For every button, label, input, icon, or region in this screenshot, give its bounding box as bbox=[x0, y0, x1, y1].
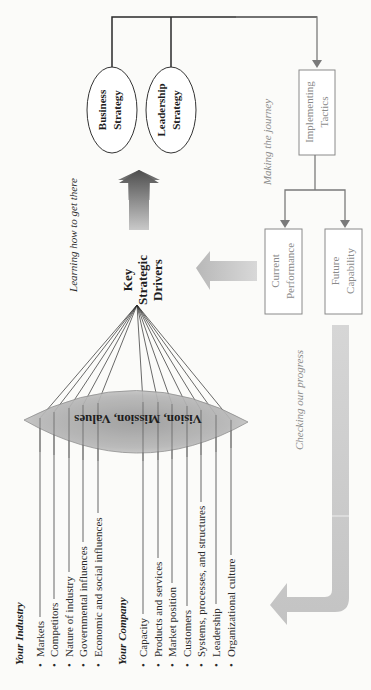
current-performance-line2: Performance bbox=[284, 243, 296, 299]
current-performance-node: Current Performance bbox=[265, 229, 302, 314]
svg-text:Competitors: Competitors bbox=[48, 603, 60, 657]
svg-text:Markets: Markets bbox=[34, 621, 46, 657]
future-capability-line1: Future bbox=[329, 257, 341, 286]
bullet-icon: • bbox=[92, 663, 104, 667]
list-item: • Economic and social influences bbox=[92, 517, 104, 667]
list-item: • Capacity bbox=[137, 617, 149, 667]
strategy-connector bbox=[112, 17, 322, 68]
industry-heading: Your Industry bbox=[13, 602, 25, 665]
business-strategy-node: Business Strategy bbox=[87, 67, 137, 153]
leadership-strategy-line2: Strategy bbox=[170, 90, 182, 130]
arrowhead-icon bbox=[340, 220, 350, 228]
svg-text:Organizational culture: Organizational culture bbox=[225, 558, 237, 657]
svg-text:Market position: Market position bbox=[166, 587, 178, 657]
return-arrow-icon bbox=[270, 325, 349, 625]
drivers-line1: Key bbox=[120, 268, 135, 291]
drivers-line2: Strategic bbox=[135, 255, 150, 305]
bullet-icon: • bbox=[195, 663, 207, 667]
bullet-icon: • bbox=[166, 663, 178, 667]
bullet-icon: • bbox=[181, 663, 193, 667]
industry-list: Your Industry • Markets • Competitors • … bbox=[13, 517, 104, 667]
list-item: • Market position bbox=[166, 587, 178, 667]
bullet-icon: • bbox=[210, 663, 222, 667]
list-item: • Governmental influences bbox=[77, 546, 89, 667]
caption-journey: Making the journey bbox=[261, 99, 273, 186]
list-item: • Products and services bbox=[152, 562, 164, 667]
svg-text:Capacity: Capacity bbox=[137, 617, 149, 657]
list-item: • Nature of industry bbox=[63, 576, 75, 667]
bullet-icon: • bbox=[77, 663, 89, 667]
list-item: • Leadership bbox=[210, 608, 222, 667]
list-item: • Customers bbox=[181, 610, 193, 667]
leadership-strategy-line1: Leadership bbox=[155, 83, 167, 136]
bullet-icon: • bbox=[225, 663, 237, 667]
list-item: • Organizational culture bbox=[225, 558, 237, 667]
svg-text:Products and services: Products and services bbox=[152, 562, 164, 657]
business-strategy-line2: Strategy bbox=[111, 90, 123, 130]
list-item: • Markets bbox=[34, 621, 46, 667]
svg-text:Nature of industry: Nature of industry bbox=[63, 576, 75, 657]
future-capability-node: Future Capability bbox=[325, 229, 362, 314]
caption-learning: Learning how to get there bbox=[67, 178, 79, 293]
svg-text:Economic and social influences: Economic and social influences bbox=[92, 517, 104, 657]
svg-text:Leadership: Leadership bbox=[210, 608, 222, 657]
list-item: • Competitors bbox=[48, 603, 60, 667]
list-item: • Systems, processes, and structures bbox=[195, 506, 207, 667]
svg-text:Systems, processes, and struct: Systems, processes, and structures bbox=[195, 506, 207, 657]
implementing-tactics-node: Implementing Tactics bbox=[299, 70, 335, 155]
current-performance-line1: Current bbox=[269, 254, 281, 288]
strategy-diagram: Business Strategy Leadership Strategy Im… bbox=[0, 0, 371, 690]
tactics-line1: Implementing bbox=[303, 81, 315, 143]
vision-mission-values-lens: Vision, Mission, Values bbox=[24, 390, 248, 461]
arrowhead-icon bbox=[280, 220, 290, 228]
bullet-icon: • bbox=[152, 663, 164, 667]
lens-label: Vision, Mission, Values bbox=[74, 412, 201, 427]
left-arrow-icon bbox=[196, 251, 257, 290]
tactics-line2: Tactics bbox=[318, 97, 330, 128]
bullet-icon: • bbox=[63, 663, 75, 667]
future-capability-line2: Capability bbox=[344, 248, 356, 294]
svg-text:Governmental influences: Governmental influences bbox=[77, 546, 89, 657]
company-heading: Your Company bbox=[116, 597, 128, 665]
drivers-line3: Drivers bbox=[150, 259, 165, 301]
svg-text:Customers: Customers bbox=[181, 610, 193, 657]
arrowhead-icon bbox=[312, 60, 322, 68]
caption-checking: Checking our progress bbox=[293, 350, 305, 450]
bullet-icon: • bbox=[34, 663, 46, 667]
key-strategic-drivers-node: Key Strategic Drivers bbox=[120, 255, 165, 305]
tactics-connector bbox=[280, 155, 350, 228]
bullet-icon: • bbox=[137, 663, 149, 667]
bullet-icon: • bbox=[48, 663, 60, 667]
company-list: Your Company • Capacity • Products and s… bbox=[116, 506, 237, 667]
leadership-strategy-node: Leadership Strategy bbox=[146, 67, 196, 153]
business-strategy-line1: Business bbox=[96, 89, 108, 130]
